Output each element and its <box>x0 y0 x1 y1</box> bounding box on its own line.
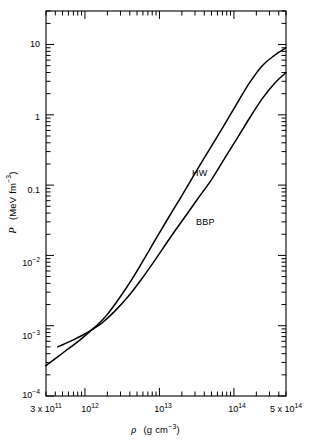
figure-neutron-star-eos-pressure-density: 1010.110−210−310−4 3 x 10111012101310145… <box>0 0 311 446</box>
x-tick-label-4: 5 x 1014 <box>251 404 311 414</box>
curve-hw <box>46 48 286 366</box>
y-axis-symbol: P <box>7 227 18 234</box>
curve-bbp <box>58 73 286 347</box>
x-axis-title: ρ(g cm−3) <box>0 424 311 435</box>
x-tick-label-1: 1012 <box>55 404 125 414</box>
y-tick-label-1: 1 <box>2 112 40 122</box>
curve-label-bbp: BBP <box>196 217 215 227</box>
y-tick-label-3: 10−2 <box>2 258 40 268</box>
plot-canvas <box>0 0 311 446</box>
data-curves <box>46 48 286 366</box>
y-axis-unit-exponent: −3 <box>5 175 12 183</box>
y-tick-label-5: 10−4 <box>2 390 40 400</box>
y-axis-title: P(MeV fm−3) <box>7 153 18 253</box>
y-tick-label-4: 10−3 <box>2 331 40 341</box>
x-tick-label-2: 1013 <box>128 404 198 414</box>
y-axis-unit-post: ) <box>7 171 18 174</box>
y-axis-unit-pre: (MeV fm <box>7 183 18 220</box>
x-axis-unit-post: ) <box>176 424 179 435</box>
x-axis-symbol: ρ <box>131 424 136 435</box>
curve-label-hw: HW <box>192 168 208 178</box>
x-axis-unit-pre: (g cm <box>143 424 168 435</box>
y-tick-label-0: 10 <box>2 39 40 49</box>
